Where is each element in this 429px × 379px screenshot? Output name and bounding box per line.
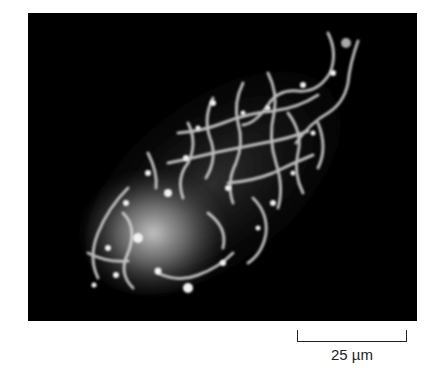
- scale-bar-label: 25 µm: [297, 346, 407, 363]
- cell-image: [28, 13, 417, 321]
- fluorescence-micrograph: [28, 13, 417, 321]
- scale-bar: [297, 330, 407, 342]
